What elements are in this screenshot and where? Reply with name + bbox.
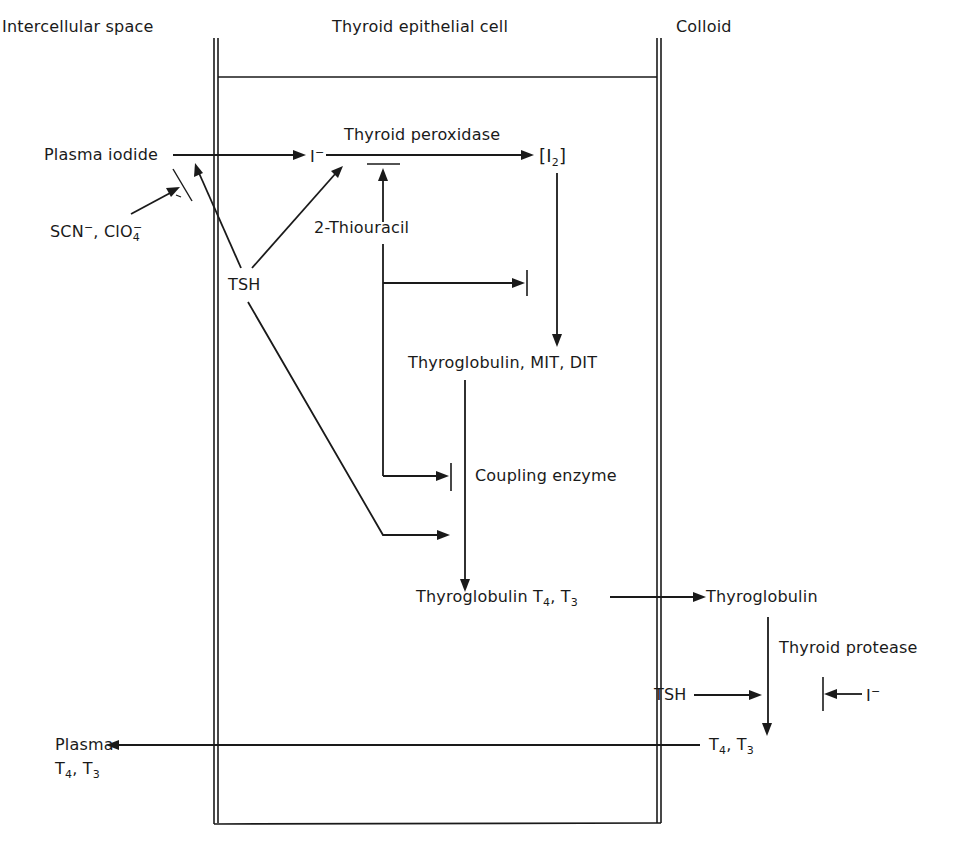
arrow-thiouracil-coupling [383,463,451,491]
label-intercellular-space: Intercellular space [2,19,154,35]
label-iodine: [I2] [539,147,566,168]
label-thyroglobulin-mit-dit: Thyroglobulin, MIT, DIT [408,355,597,371]
arrow-protease [762,617,772,736]
plasma-t-prefix: T [55,759,65,778]
membrane-right [657,38,661,823]
iodide-charge: − [315,146,324,159]
label-t4-t3-colloid: T4, T3 [709,737,754,756]
arrow-thiouracil-up [378,168,388,222]
label-thyroid-epithelial-cell: Thyroid epithelial cell [332,19,508,35]
t4t3-mid: , T [726,735,747,754]
label-thyroglobulin-t4-t3: Thyroglobulin T4, T3 [416,589,578,608]
label-plasma-iodide: Plasma iodide [44,147,158,163]
label-plasma-out: Plasma [55,737,114,753]
tg-mid: , T [550,587,571,606]
label-2-thiouracil: 2-Thiouracil [314,220,409,236]
scn-charge: − [84,221,93,234]
tg-sub3: 3 [571,596,578,609]
label-coupling-enzyme: Coupling enzyme [475,468,617,484]
t4t3-prefix: T [709,735,719,754]
thyroid-pathway-diagram: Intercellular space Thyroid epithelial c… [0,0,977,854]
scn-symbol: SCN [50,222,84,241]
label-inhibitor-anions: SCN−, ClO4− [50,222,142,243]
arrow-iodide-protease-inhibition [823,677,862,711]
label-colloid: Colloid [676,19,732,35]
clo-charge: − [133,221,142,234]
arrow-iodination [552,173,562,347]
arrow-secretion-colloid [610,592,706,602]
arrow-tsh-oxidation [252,166,343,268]
label-iodide-colloid: I− [866,686,880,704]
plasma-sub3: 3 [93,768,100,781]
t4t3-sub3: 3 [747,744,754,757]
arrow-iodide-uptake [173,150,306,160]
iodide-colloid-charge: − [871,685,880,698]
arrow-release-plasma [106,740,700,750]
label-plasma-t4-t3: T4, T3 [55,761,100,780]
label-iodide-ion: I− [310,147,324,165]
arrow-tsh-coupling [248,302,450,540]
iodine-close: ] [559,145,566,166]
arrow-tsh-protease [694,690,762,700]
label-thyroid-protease: Thyroid protease [779,640,918,656]
arrow-peroxidase [326,150,534,160]
iodine-sub: 2 [552,156,559,169]
label-tsh-colloid: TSH [654,687,687,703]
label-tsh-cell: TSH [228,277,261,293]
tg-prefix: Thyroglobulin T [416,587,543,606]
label-thyroid-peroxidase: Thyroid peroxidase [344,127,500,143]
cell-bottom-line [214,823,661,824]
label-thyroglobulin-colloid: Thyroglobulin [706,589,818,605]
arrow-anion-inhibition [131,169,192,214]
arrow-coupling [460,380,470,592]
clo-symbol: , ClO [93,222,132,241]
iodine-open: [I [539,145,552,166]
arrow-thiouracil-iodination [383,270,527,296]
plasma-mid: , T [72,759,93,778]
